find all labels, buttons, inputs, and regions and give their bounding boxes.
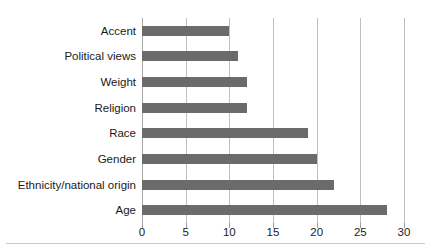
x-tick-label: 15 <box>258 226 288 238</box>
bar <box>142 51 238 61</box>
bar <box>142 180 334 190</box>
bar <box>142 128 308 138</box>
gridline-5 <box>186 18 187 223</box>
bottom-divider-rule <box>6 243 425 244</box>
category-label: Accent <box>0 25 136 37</box>
bar-chart: AccentPolitical viewsWeightReligionRaceG… <box>0 0 431 250</box>
gridline-20 <box>317 18 318 223</box>
category-label: Age <box>0 204 136 216</box>
x-tick-label: 5 <box>171 226 201 238</box>
category-label: Race <box>0 127 136 139</box>
category-label: Political views <box>0 50 136 62</box>
plot-area <box>142 18 404 223</box>
category-label: Religion <box>0 102 136 114</box>
bar <box>142 154 317 164</box>
x-tick-label: 0 <box>127 226 157 238</box>
bar <box>142 26 229 36</box>
gridline-0 <box>142 18 143 223</box>
gridline-10 <box>229 18 230 223</box>
bar <box>142 205 387 215</box>
category-label: Ethnicity/national origin <box>0 179 136 191</box>
bar <box>142 103 247 113</box>
gridline-15 <box>273 18 274 223</box>
gridline-30 <box>404 18 405 223</box>
gridline-25 <box>360 18 361 223</box>
category-label: Weight <box>0 76 136 88</box>
category-label: Gender <box>0 153 136 165</box>
bar <box>142 77 247 87</box>
x-tick-label: 25 <box>345 226 375 238</box>
x-tick-label: 30 <box>389 226 419 238</box>
x-tick-label: 20 <box>302 226 332 238</box>
x-tick-label: 10 <box>214 226 244 238</box>
